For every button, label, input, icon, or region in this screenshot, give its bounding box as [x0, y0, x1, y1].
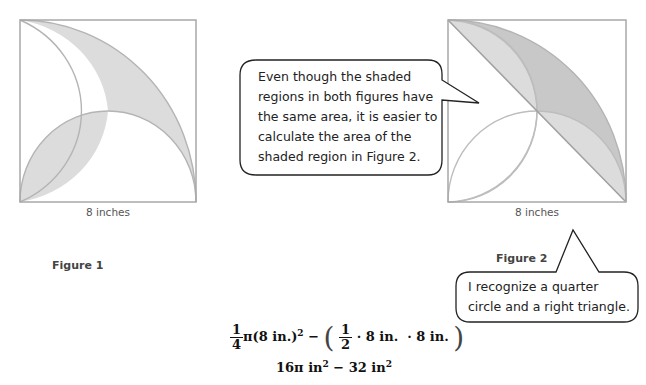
figure-2-caption: Figure 2	[496, 252, 547, 265]
open-paren: (	[324, 321, 335, 354]
close-paren: )	[453, 321, 464, 354]
figure-2-drawing	[448, 20, 626, 202]
figure-1-dimension-label: 8 inches	[48, 206, 168, 218]
fraction-one-quarter: 14	[230, 323, 243, 352]
formula-line-1: 14π(8 in.)2 − ( 12 · 8 in. · 8 in. )	[230, 321, 464, 354]
figure-2-dimension-label: 8 inches	[477, 206, 597, 218]
figure-1-caption: Figure 1	[52, 259, 103, 272]
figure-1-shaded-lens	[20, 111, 108, 202]
formula-line-2: 16π in2 − 32 in2	[276, 359, 392, 375]
fraction-one-half: 12	[339, 323, 352, 352]
figure-1-drawing	[20, 20, 196, 202]
callout-comparison-text: Even though the shaded regions in both f…	[258, 67, 437, 167]
callout-recognize-text: I recognize a quarter circle and a right…	[468, 277, 630, 317]
